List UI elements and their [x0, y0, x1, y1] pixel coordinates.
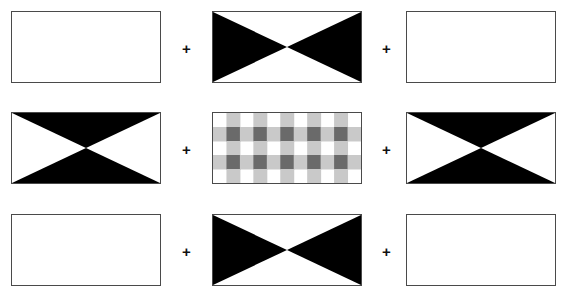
blank-patch-top-left[interactable]	[11, 11, 161, 83]
plus-operator-2: +	[382, 41, 391, 56]
bowtie-vertical-patch-middle-left[interactable]	[11, 112, 161, 184]
plus-operator-4: +	[382, 142, 391, 157]
stimulus-grid: ++++++	[0, 0, 573, 297]
plus-operator-6: +	[382, 244, 391, 259]
plus-operator-3: +	[182, 142, 191, 157]
gingham-patch-middle-center[interactable]	[212, 112, 362, 184]
plus-operator-5: +	[182, 244, 191, 259]
plus-operator-1: +	[182, 41, 191, 56]
blank-patch-bottom-left[interactable]	[11, 214, 161, 286]
blank-patch-top-right[interactable]	[406, 11, 556, 83]
bowtie-vertical-patch-middle-right[interactable]	[406, 112, 556, 184]
blank-patch-bottom-right[interactable]	[406, 214, 556, 286]
bowtie-horizontal-patch-top-center[interactable]	[212, 11, 362, 83]
bowtie-horizontal-patch-bottom-center[interactable]	[212, 214, 362, 286]
